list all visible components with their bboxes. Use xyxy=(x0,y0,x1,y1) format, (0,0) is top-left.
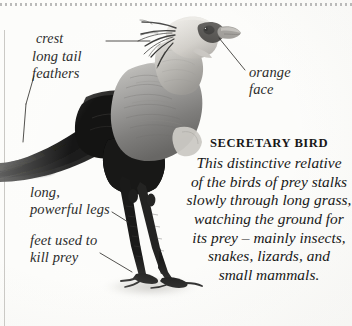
caption-line: snakes, lizards, and xyxy=(186,247,352,266)
caption-line: its prey – mainly insects, xyxy=(186,229,352,248)
annotation-label-powerful-legs: long, powerful legs xyxy=(30,184,110,218)
caption-line: watching the ground for xyxy=(186,210,352,229)
annotation-label-orange-face: orange face xyxy=(249,64,291,98)
caption-line: This distinctive relative xyxy=(186,154,352,173)
annotation-label-feet-kill-prey: feet used to kill prey xyxy=(30,232,97,266)
caption-line: slowly through long grass, xyxy=(186,191,352,210)
annotation-label-crest: crest xyxy=(36,31,63,48)
caption-body: This distinctive relative of the birds o… xyxy=(186,154,352,284)
caption-line: small mammals. xyxy=(186,266,352,285)
caption-heading: SECRETARY BIRD xyxy=(186,136,352,151)
caption-block: SECRETARY BIRD This distinctive relative… xyxy=(186,136,352,284)
figure-page: crest long tail feathers orange face lon… xyxy=(0,0,352,326)
annotation-label-long-tail-feathers: long tail feathers xyxy=(32,48,82,82)
caption-line: of the birds of prey stalks xyxy=(186,173,352,192)
